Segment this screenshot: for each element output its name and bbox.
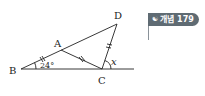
concept-icon: ☯	[152, 13, 158, 26]
label-C: C	[98, 75, 106, 86]
label-D: D	[114, 10, 122, 21]
label-B: B	[9, 65, 16, 76]
angle-B-arc	[35, 63, 36, 69]
segment-BD	[21, 24, 117, 69]
label-x: x	[111, 56, 117, 67]
label-angle-B: 24°	[40, 61, 54, 70]
badge-divider	[148, 26, 149, 40]
concept-badge: ☯ 개념 179	[148, 13, 199, 26]
badge-label: 개념 179	[160, 13, 193, 26]
label-A: A	[53, 38, 62, 49]
equal-mark-CD	[106, 44, 112, 48]
